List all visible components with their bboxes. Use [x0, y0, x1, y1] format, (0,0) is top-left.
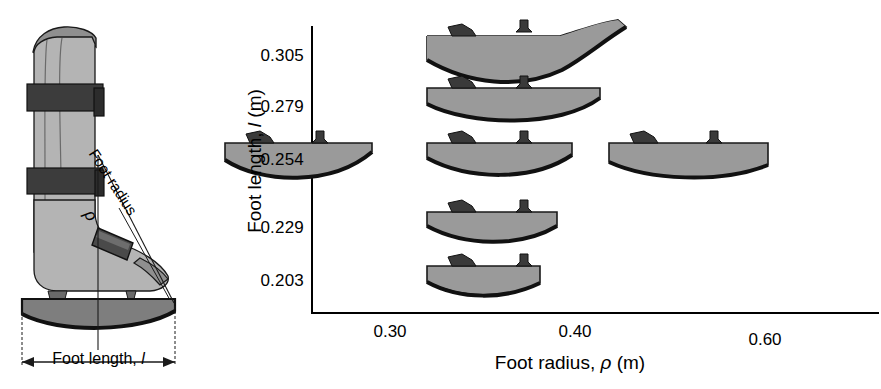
boot-upper-strap [27, 84, 103, 111]
foot-length-caption-symbol: l [141, 350, 145, 367]
rocker-sole-rho-0.40-l-0.305 [427, 20, 626, 82]
heel-stud-icon [448, 254, 476, 266]
heel-stud-icon [448, 24, 476, 36]
boot-forefoot-stud [126, 291, 136, 299]
rocker-sole-rho-0.60-l-0.254 [609, 131, 768, 177]
sole-body [427, 143, 572, 175]
y-tick-label-1: 0.279 [232, 97, 304, 117]
forefoot-stud-icon [706, 131, 722, 143]
sole-body [427, 88, 600, 121]
rocker-sole-rho-0.40-l-0.229 [427, 200, 557, 242]
forefoot-stud-icon [516, 200, 532, 212]
heel-stud-icon [630, 131, 658, 143]
x-axis-title-text: Foot radius, [495, 352, 595, 373]
rocker-sole-rho-0.40-l-0.254 [427, 131, 572, 175]
x-axis-title: Foot radius, ρ (m) [400, 352, 740, 374]
boot-drawing [0, 0, 220, 389]
forefoot-stud-icon [516, 131, 532, 143]
heel-stud-icon [448, 131, 476, 143]
rocker-sole-design-matrix: 0.305 0.279 0.254 0.229 0.203 0.30 0.40 … [220, 0, 881, 389]
y-axis-title-symbol: l [244, 123, 265, 127]
forefoot-stud-icon [516, 254, 532, 266]
boot-heel-stud [48, 291, 67, 299]
y-tick-label-4: 0.203 [232, 271, 304, 291]
x-tick-label-1: 0.40 [535, 322, 615, 342]
y-axis-title: Foot length, l (m) [244, 66, 266, 256]
heel-stud-icon [448, 200, 476, 212]
boot-upper-strap-buckle [94, 88, 104, 116]
sole-body [427, 212, 557, 242]
x-tick-label-0: 0.30 [350, 322, 430, 342]
forefoot-stud-icon [312, 131, 328, 143]
y-axis-title-text: Foot length, [244, 132, 265, 232]
figure-root: Foot radius ρ Foot length, l [0, 0, 881, 389]
y-tick-label-3: 0.229 [232, 218, 304, 238]
x-axis-title-units: (m) [617, 352, 645, 373]
rocker-sole-rho-0.40-l-0.203 [427, 254, 540, 296]
foot-length-caption-text: Foot length, [52, 350, 137, 367]
y-axis-title-units: (m) [244, 89, 265, 117]
rocker-sole-boot-illustration: Foot radius ρ Foot length, l [0, 0, 220, 389]
y-tick-label-0: 0.305 [232, 46, 304, 66]
x-tick-label-2: 0.60 [725, 330, 805, 350]
boot-lower-strap [27, 168, 103, 194]
x-axis-title-symbol: ρ [600, 352, 611, 373]
foot-length-caption: Foot length, l [22, 350, 175, 368]
forefoot-stud-icon [516, 20, 532, 32]
y-tick-label-2: 0.254 [232, 150, 304, 170]
